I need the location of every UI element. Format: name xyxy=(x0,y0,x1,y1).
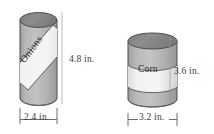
onions-can-top xyxy=(20,13,57,28)
onions-diameter-label: 2.4 in. xyxy=(24,112,49,122)
onions-height-label: 4.8 in. xyxy=(69,54,94,64)
corn-diameter-label: 3.2 in. xyxy=(139,112,164,122)
corn-height-label: 3.6 in. xyxy=(174,66,199,76)
corn-can-label: Corn xyxy=(138,64,158,74)
